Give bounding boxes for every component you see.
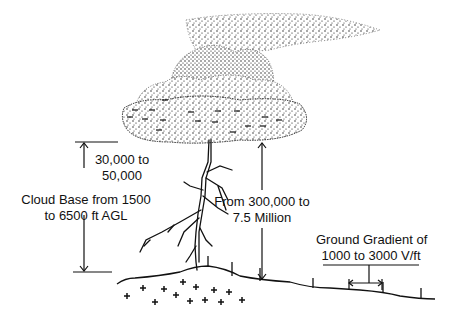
cloud-charge-label-line2: 50,000 [82, 168, 162, 184]
ground-gradient-label-line2: 1000 to 3000 V/ft [316, 248, 426, 264]
cloud-charge-label: 30,000 to 50,000 [82, 152, 162, 184]
potential-label-line1: From 300,000 to [200, 194, 324, 210]
lightning-diagram [0, 0, 451, 319]
cloud-base-label-line1: Cloud Base from 1500 [16, 192, 156, 208]
ground-gradient-label: Ground Gradient of 1000 to 3000 V/ft [316, 232, 426, 264]
ground-gradient-label-line1: Ground Gradient of [316, 232, 426, 248]
cloud-base-label: Cloud Base from 1500 to 6500 ft AGL [16, 192, 156, 224]
thundercloud [122, 14, 380, 144]
potential-label-line2: 7.5 Million [200, 210, 324, 226]
ground-gradient-indicator [323, 265, 419, 290]
potential-label: From 300,000 to 7.5 Million [200, 194, 324, 226]
cloud-charge-label-line1: 30,000 to [82, 152, 162, 168]
ground-positive-charges [124, 279, 245, 305]
cloud-base-label-line2: to 6500 ft AGL [16, 208, 156, 224]
